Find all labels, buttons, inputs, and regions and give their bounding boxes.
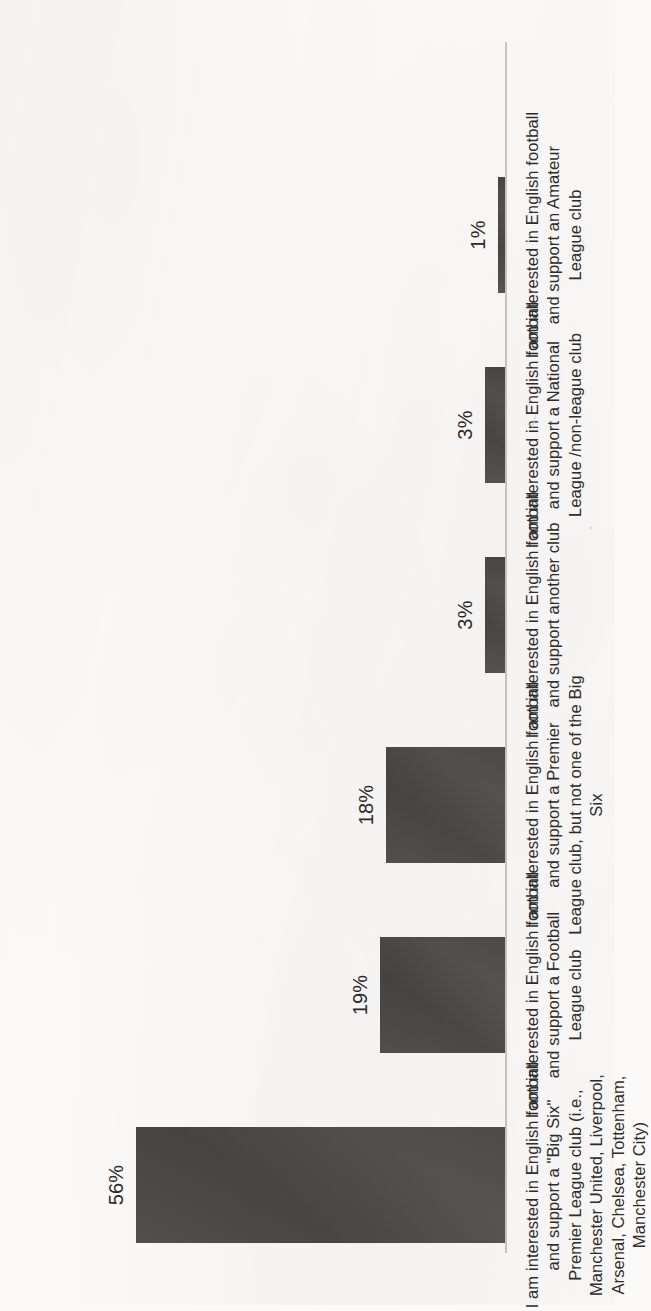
category-label-6-line-1: I am interested in English football and … [522,104,565,366]
bar-4[interactable] [485,557,505,673]
bar-group-1: 56% [110,1127,505,1243]
bar-value-label-1: 56% [105,1127,128,1243]
category-axis-line [505,42,507,1253]
bar-value-label-5: 3% [454,367,477,483]
category-label-3-line-2: League club, but not one of the Big Six [565,674,608,936]
bar-group-4: 3% [110,557,505,673]
category-label-6: I am interested in English football and … [522,104,586,366]
category-label-6-line-2: League club [565,104,586,366]
bar-value-label-6: 1% [467,177,490,293]
bar-value-label-2: 19% [349,937,372,1053]
bar-group-5: 3% [110,367,505,483]
bar-1[interactable] [136,1127,505,1243]
bar-group-3: 18% [110,747,505,863]
bar-value-label-3: 18% [355,747,378,863]
bar-group-6: 1% [110,177,505,293]
bar-group-2: 19% [110,937,505,1053]
bar-5[interactable] [485,367,505,483]
bar-value-label-4: 3% [454,557,477,673]
bar-6[interactable] [498,177,505,293]
bar-2[interactable] [380,937,505,1053]
bar-3[interactable] [386,747,505,863]
category-label-1-line-3: Arsenal, Chelsea, Tottenham, Manchester … [608,1054,651,1311]
